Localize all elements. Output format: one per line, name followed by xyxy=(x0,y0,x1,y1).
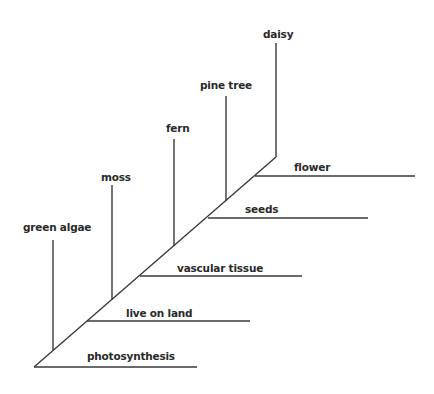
organism-label-pine-tree: pine tree xyxy=(200,80,252,91)
organism-label-fern: fern xyxy=(166,123,190,134)
trait-label-flower: flower xyxy=(294,162,330,173)
organism-label-daisy: daisy xyxy=(263,29,293,40)
cladogram-lines xyxy=(0,0,434,394)
organism-label-green-algae: green algae xyxy=(23,222,91,233)
organism-label-moss: moss xyxy=(101,172,131,183)
trait-label-vascular-tissue: vascular tissue xyxy=(177,263,263,274)
trait-label-live-on-land: live on land xyxy=(126,308,192,319)
trait-label-seeds: seeds xyxy=(245,204,278,215)
trait-label-photosynthesis: photosynthesis xyxy=(87,351,175,362)
